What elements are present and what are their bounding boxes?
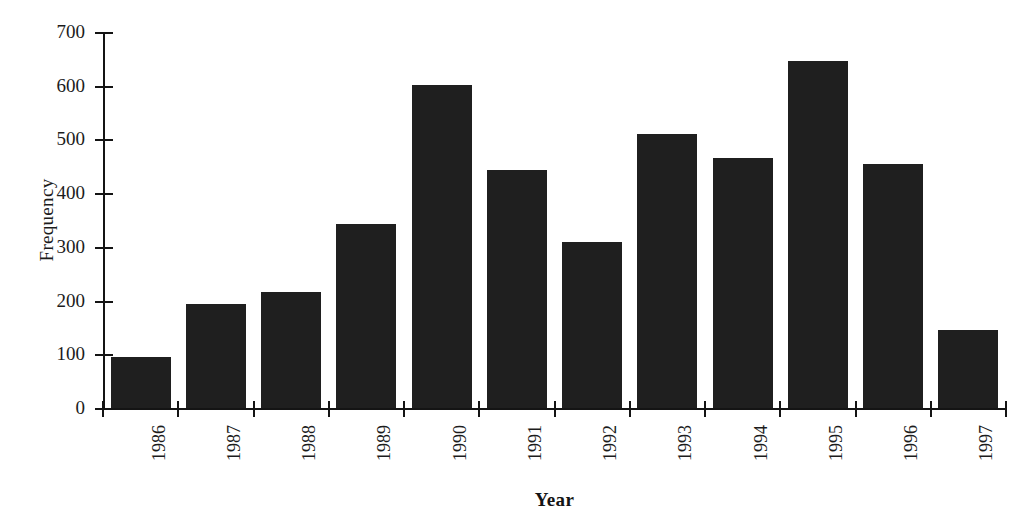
bar-chart: Frequency 0100200300400500600700 1986198… <box>0 0 1027 520</box>
x-tick-mark <box>1005 401 1007 417</box>
x-axis-title: Year <box>103 489 1006 511</box>
x-tick-mark <box>102 401 104 417</box>
bar <box>487 170 547 409</box>
y-tick: 100 <box>0 354 113 356</box>
y-tick-label: 500 <box>31 129 85 148</box>
y-tick: 600 <box>0 86 113 88</box>
bar <box>336 224 396 409</box>
y-tick-label: 100 <box>31 344 85 363</box>
y-tick-mark <box>95 247 113 249</box>
x-tick-mark <box>253 401 255 417</box>
y-tick: 700 <box>0 32 113 34</box>
y-tick: 0 <box>0 408 113 410</box>
x-tick-mark <box>779 401 781 417</box>
y-tick-mark <box>95 193 113 195</box>
y-tick-label: 0 <box>31 398 85 417</box>
bar <box>111 357 171 409</box>
x-tick-mark <box>177 401 179 417</box>
y-tick: 300 <box>0 247 113 249</box>
y-tick-mark <box>95 354 113 356</box>
x-tick-mark <box>629 401 631 417</box>
y-tick: 500 <box>0 139 113 141</box>
bar <box>261 292 321 409</box>
bar <box>186 304 246 409</box>
y-tick-label: 700 <box>31 22 85 41</box>
bar <box>637 134 697 409</box>
y-tick-label: 400 <box>31 183 85 202</box>
x-tick-mark <box>930 401 932 417</box>
y-tick-mark <box>95 86 113 88</box>
bar <box>412 85 472 409</box>
x-tick-mark <box>554 401 556 417</box>
y-tick-label: 600 <box>31 76 85 95</box>
y-tick-mark <box>95 301 113 303</box>
y-tick-mark <box>95 139 113 141</box>
bar <box>788 61 848 409</box>
x-tick-mark <box>403 401 405 417</box>
x-tick-mark <box>855 401 857 417</box>
bar <box>938 330 998 409</box>
x-tick-mark <box>328 401 330 417</box>
y-tick-label: 300 <box>31 237 85 256</box>
y-tick-label: 200 <box>31 291 85 310</box>
y-tick: 400 <box>0 193 113 195</box>
bar <box>713 158 773 409</box>
bar <box>863 164 923 409</box>
bar <box>562 242 622 409</box>
x-tick-mark <box>704 401 706 417</box>
x-tick-mark <box>478 401 480 417</box>
y-tick-mark <box>95 32 113 34</box>
y-tick: 200 <box>0 301 113 303</box>
